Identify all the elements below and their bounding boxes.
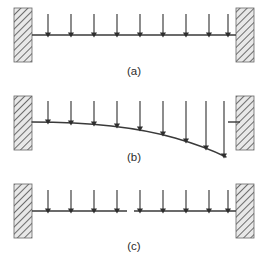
figure-background — [0, 0, 268, 265]
panel-label-c: (c) — [127, 240, 141, 252]
figure-canvas: (a) (b) (c) — [0, 0, 268, 265]
left-support-wall — [14, 8, 32, 62]
left-support-wall — [14, 184, 32, 238]
right-support-wall — [236, 8, 254, 62]
right-support-wall — [236, 184, 254, 238]
panel-label-a: (a) — [127, 65, 141, 77]
panel-label-b: (b) — [127, 151, 141, 163]
right-support-wall — [236, 96, 254, 150]
left-support-wall — [14, 96, 32, 150]
beam-diagram-figure: (a) (b) (c) — [0, 0, 268, 265]
